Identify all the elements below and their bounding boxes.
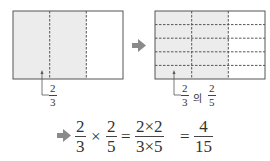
- term-3-denominator: 3×5: [135, 138, 164, 155]
- equation-arrow-icon: [57, 129, 71, 142]
- times-operator: ×: [91, 127, 101, 147]
- left-rectangle: [13, 11, 123, 95]
- right-label-connector: 의: [193, 90, 202, 105]
- right-label-2-denominator: 5: [208, 97, 216, 108]
- term-3-numerator: 2×2: [135, 118, 164, 135]
- right-label-fraction-2: 2 5: [208, 83, 216, 108]
- term-1-numerator: 2: [75, 118, 86, 135]
- right-label-2-numerator: 2: [208, 83, 216, 94]
- result-numerator: 4: [198, 118, 209, 135]
- result-denominator: 15: [194, 138, 213, 155]
- equals-operator-2: =: [180, 127, 190, 147]
- right-arrow-icon: [132, 39, 146, 52]
- equation-term-1: 2 3: [75, 118, 86, 155]
- left-label-numerator: 2: [49, 83, 57, 94]
- term-2-denominator: 5: [106, 138, 117, 155]
- equation-term-3: 2×2 3×5: [135, 118, 164, 155]
- left-label-fraction: 2 3: [49, 83, 57, 108]
- left-label-denominator: 3: [49, 97, 57, 108]
- term-2-numerator: 2: [106, 118, 117, 135]
- equals-operator-1: =: [121, 127, 131, 147]
- term-1-denominator: 3: [75, 138, 86, 155]
- equation-term-2: 2 5: [106, 118, 117, 155]
- right-label-1-numerator: 2: [181, 83, 189, 94]
- right-label-1-denominator: 3: [181, 97, 189, 108]
- equation-result: 4 15: [194, 118, 213, 155]
- right-label-fraction-1: 2 3: [181, 83, 189, 108]
